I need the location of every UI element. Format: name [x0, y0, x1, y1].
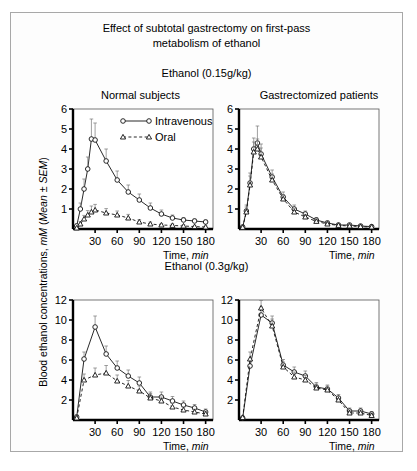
svg-text:60: 60	[277, 426, 289, 438]
svg-text:60: 60	[111, 235, 123, 247]
svg-text:1: 1	[61, 203, 67, 215]
svg-text:8: 8	[227, 334, 233, 346]
svg-text:12: 12	[55, 294, 67, 306]
svg-text:4: 4	[227, 143, 233, 155]
svg-text:10: 10	[55, 314, 67, 326]
svg-text:90: 90	[133, 426, 145, 438]
svg-text:120: 120	[152, 235, 170, 247]
svg-text:5: 5	[61, 123, 67, 135]
chart-panel-top-right: 123456306090120150180	[213, 103, 385, 251]
svg-text:4: 4	[61, 143, 67, 155]
svg-text:180: 180	[362, 426, 380, 438]
svg-text:4: 4	[227, 374, 233, 386]
svg-text:150: 150	[340, 235, 358, 247]
svg-text:60: 60	[111, 426, 123, 438]
svg-text:30: 30	[89, 426, 101, 438]
svg-text:150: 150	[174, 235, 192, 247]
svg-text:30: 30	[89, 235, 101, 247]
chart-panel-bottom-right: 24681012306090120150180	[213, 294, 385, 442]
svg-text:2: 2	[227, 394, 233, 406]
svg-text:Intravenous: Intravenous	[155, 115, 213, 127]
svg-text:10: 10	[221, 314, 233, 326]
svg-text:150: 150	[340, 426, 358, 438]
svg-text:6: 6	[61, 103, 67, 115]
dose-label-top: Ethanol (0.15g/kg)	[11, 67, 402, 79]
svg-text:180: 180	[362, 235, 380, 247]
plot-svg: 24681012306090120150180	[213, 294, 385, 442]
svg-text:120: 120	[152, 426, 170, 438]
svg-text:6: 6	[61, 354, 67, 366]
figure-title-line1: Effect of subtotal gastrectomy on first-…	[11, 21, 402, 36]
svg-text:12: 12	[221, 294, 233, 306]
figure-title: Effect of subtotal gastrectomy on first-…	[11, 21, 402, 51]
svg-text:1: 1	[227, 203, 233, 215]
svg-text:150: 150	[174, 426, 192, 438]
svg-text:2: 2	[227, 183, 233, 195]
svg-text:120: 120	[318, 426, 336, 438]
svg-text:6: 6	[227, 354, 233, 366]
svg-text:30: 30	[255, 426, 267, 438]
svg-text:30: 30	[255, 235, 267, 247]
svg-text:3: 3	[61, 163, 67, 175]
plot-svg: 123456306090120150180IntravenousOral	[47, 103, 219, 251]
panel-title-normal-subjects: Normal subjects	[73, 89, 208, 101]
svg-text:90: 90	[299, 235, 311, 247]
chart-panel-top-left: 123456306090120150180IntravenousOral	[47, 103, 219, 251]
panel-title-gastrectomized-patients: Gastrectomized patients	[239, 89, 399, 101]
svg-text:8: 8	[61, 334, 67, 346]
svg-text:60: 60	[277, 235, 289, 247]
svg-text:120: 120	[318, 235, 336, 247]
chart-panel-bottom-left: 24681012306090120150180	[47, 294, 219, 442]
figure-frame: Effect of subtotal gastrectomy on first-…	[10, 12, 403, 452]
svg-text:90: 90	[299, 426, 311, 438]
svg-text:90: 90	[133, 235, 145, 247]
plot-svg: 123456306090120150180	[213, 103, 385, 251]
dose-label-bottom: Ethanol (0.3g/kg)	[11, 260, 402, 272]
figure-title-line2: metabolism of ethanol	[11, 36, 402, 51]
svg-text:4: 4	[61, 374, 67, 386]
svg-text:2: 2	[61, 183, 67, 195]
svg-text:Oral: Oral	[155, 131, 176, 143]
svg-text:5: 5	[227, 123, 233, 135]
svg-text:3: 3	[227, 163, 233, 175]
svg-text:6: 6	[227, 103, 233, 115]
svg-text:2: 2	[61, 394, 67, 406]
plot-svg: 24681012306090120150180	[47, 294, 219, 442]
